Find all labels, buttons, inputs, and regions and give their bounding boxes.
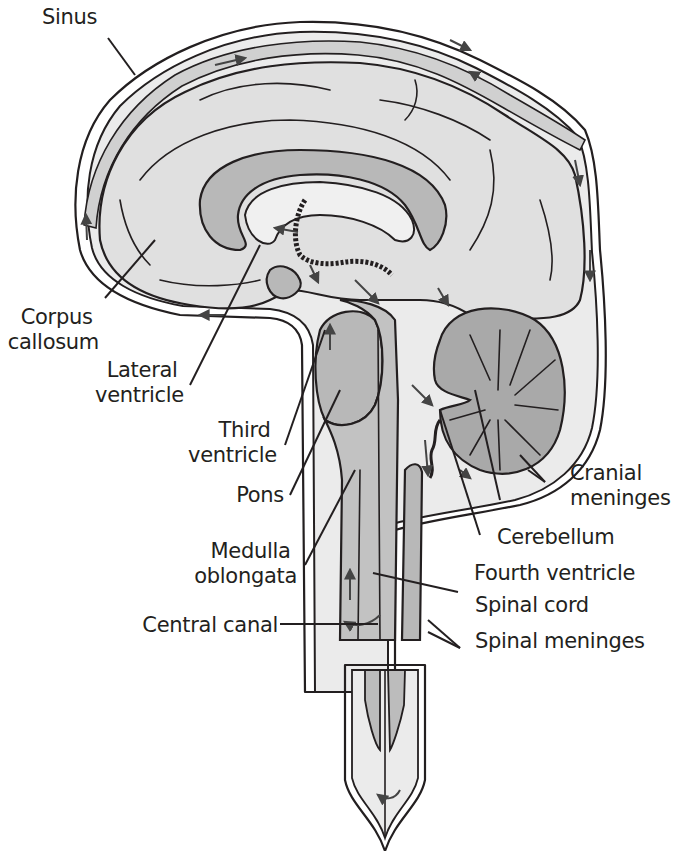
label-cerebellum: Cerebellum <box>497 525 614 549</box>
label-lateral-ventricle: Lateral ventricle <box>95 358 184 407</box>
label-central-canal: Central canal <box>142 613 278 637</box>
label-cranial-meninges: Cranial meninges <box>570 461 671 510</box>
spinal-column-shape <box>402 464 422 640</box>
label-third-ventricle: Third ventricle <box>188 418 277 467</box>
label-medulla-oblongata: Medulla oblongata <box>194 539 297 588</box>
label-fourth-ventricle: Fourth ventricle <box>474 561 635 585</box>
csf-circulation-diagram: Sinus Corpus callosum Lateral ventricle … <box>0 0 683 851</box>
cerebellum-shape <box>434 308 565 473</box>
label-spinal-meninges: Spinal meninges <box>475 629 645 653</box>
label-spinal-cord: Spinal cord <box>475 593 589 617</box>
label-sinus: Sinus <box>42 5 97 29</box>
label-corpus-callosum: Corpus callosum <box>8 305 99 354</box>
spinal-cord-lower-segment <box>345 665 425 851</box>
label-pons: Pons <box>236 483 284 507</box>
